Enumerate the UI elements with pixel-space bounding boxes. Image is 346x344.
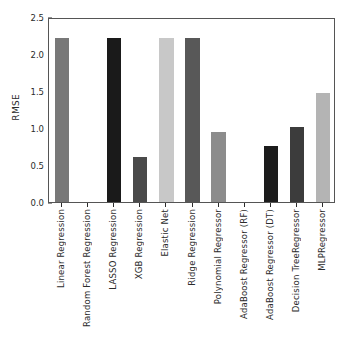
y-axis-tick-label: 0.5 [30, 161, 44, 171]
x-axis-tick-label: Polynomial Regressor [213, 209, 223, 304]
bar [290, 127, 304, 202]
x-axis-tick-marks [48, 203, 335, 207]
bar [55, 38, 69, 202]
x-axis-tick-label: Random Forest Regression [82, 209, 92, 327]
rmse-bar-chart-figure: RMSE 0.00.51.01.52.02.5 Linear Regressio… [0, 0, 346, 344]
y-axis-tick-labels: 0.00.51.01.52.02.5 [22, 18, 48, 203]
x-axis-tick-mark [270, 203, 271, 207]
y-axis-tick-label: 2.5 [30, 13, 44, 23]
x-axis-tick-mark [61, 203, 62, 207]
bar [159, 38, 173, 202]
bar [211, 132, 225, 202]
x-axis-tick-label: XGB Regression [134, 209, 144, 279]
bar [107, 38, 121, 202]
x-axis-tick-mark [87, 203, 88, 207]
bar-series [49, 19, 334, 202]
y-axis-tick-label: 1.5 [30, 87, 44, 97]
x-axis-tick-label: Decision TreeRegressor [291, 209, 301, 312]
x-axis-tick-label: AdaBoost Regressor (DT) [265, 209, 275, 320]
bar [133, 157, 147, 202]
y-axis-tick-label: 2.0 [30, 50, 44, 60]
x-axis-tick-labels: Linear RegressionRandom Forest Regressio… [48, 209, 335, 339]
x-axis-tick-mark [165, 203, 166, 207]
bar [316, 93, 330, 202]
x-axis-tick-mark [192, 203, 193, 207]
plot-area [48, 18, 335, 203]
x-axis-tick-label: MLPRegressor [317, 209, 327, 271]
x-axis-tick-mark [113, 203, 114, 207]
x-axis-tick-mark [322, 203, 323, 207]
x-axis-tick-label: Elastic Net [160, 209, 170, 257]
x-axis-tick-label: Linear Regression [56, 209, 66, 288]
bar [185, 38, 199, 202]
x-axis-tick-mark [218, 203, 219, 207]
y-axis-tick-label: 0.0 [30, 198, 44, 208]
x-axis-tick-label: Ridge Regression [187, 209, 197, 286]
bar [264, 146, 278, 202]
x-axis-tick-mark [139, 203, 140, 207]
x-axis-tick-label: AdaBoost Regressor (RF) [239, 209, 249, 319]
y-axis-tick-label: 1.0 [30, 124, 44, 134]
x-axis-tick-label: LASSO Regression [108, 209, 118, 290]
x-axis-tick-mark [296, 203, 297, 207]
x-axis-tick-mark [244, 203, 245, 207]
y-axis-label: RMSE [11, 94, 21, 121]
